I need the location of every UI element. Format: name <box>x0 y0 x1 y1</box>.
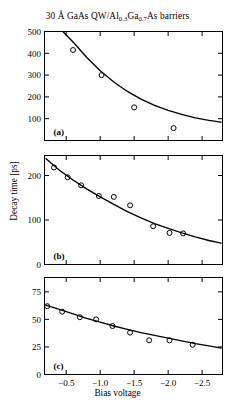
data-point <box>147 338 152 343</box>
y-tick-label: 50 <box>32 315 42 325</box>
data-point <box>132 105 137 110</box>
panel-label: (b) <box>54 251 65 261</box>
plot-svg: 100200300400500(a)0100200(b)−0.5−1.0−1.5… <box>0 0 235 418</box>
fit-curve <box>63 32 221 123</box>
data-point <box>171 126 176 131</box>
data-point <box>71 48 76 53</box>
x-tick-label: −2.5 <box>194 378 211 388</box>
data-point <box>151 224 156 229</box>
panel-frame <box>45 156 223 265</box>
data-point <box>99 73 104 78</box>
x-tick-label: −1.0 <box>92 378 109 388</box>
y-tick-label: 400 <box>28 49 42 59</box>
x-tick-label: −0.5 <box>58 378 75 388</box>
y-tick-label: 100 <box>28 114 42 124</box>
figure-container: 30 Å GaAs QW/Al0.3Ga0.7As barriers Decay… <box>0 0 235 418</box>
y-tick-label: 75 <box>32 287 42 297</box>
panel-b: 0100200(b) <box>28 156 223 270</box>
fit-curve <box>46 159 221 244</box>
x-tick-label: −2.0 <box>160 378 177 388</box>
y-tick-label: 0 <box>37 260 42 270</box>
panel-c: −0.5−1.0−1.5−2.0−2.50255075(c) <box>32 278 223 389</box>
data-point <box>167 230 172 235</box>
panel-label: (c) <box>54 361 64 371</box>
y-tick-label: 200 <box>28 92 42 102</box>
y-tick-label: 100 <box>28 215 42 225</box>
data-point <box>111 194 116 199</box>
y-tick-label: 300 <box>28 70 42 80</box>
data-point <box>128 330 133 335</box>
y-tick-label: 0 <box>37 370 42 380</box>
y-tick-label: 500 <box>28 27 42 37</box>
y-tick-label: 25 <box>32 342 42 352</box>
panel-label: (a) <box>54 127 65 137</box>
y-tick-label: 200 <box>28 171 42 181</box>
fit-curve <box>46 305 221 348</box>
x-tick-label: −1.5 <box>126 378 143 388</box>
panel-frame <box>45 278 223 375</box>
panel-a: 100200300400500(a) <box>28 27 223 141</box>
data-point <box>128 203 133 208</box>
